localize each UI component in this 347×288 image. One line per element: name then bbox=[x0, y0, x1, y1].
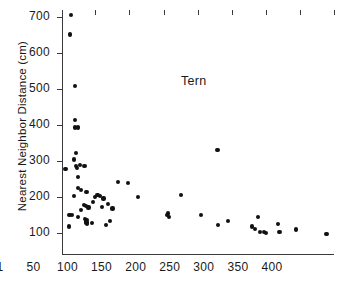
x-tick-label: 100 bbox=[57, 260, 78, 274]
data-point bbox=[215, 148, 219, 152]
y-tick: 500 bbox=[57, 89, 62, 90]
y-axis-line bbox=[62, 10, 63, 255]
data-point bbox=[85, 222, 89, 226]
data-point bbox=[68, 32, 72, 36]
x-tick-label: 300 bbox=[193, 260, 214, 274]
x-tick-label: 1 bbox=[0, 260, 3, 274]
y-tick: 700 bbox=[57, 17, 62, 18]
x-tick-label: 200 bbox=[125, 260, 146, 274]
x-tick-label: 400 bbox=[262, 260, 283, 274]
x-tick-label: 250 bbox=[159, 260, 180, 274]
data-point bbox=[116, 180, 120, 184]
data-point bbox=[82, 164, 86, 168]
data-point bbox=[72, 157, 76, 161]
data-point bbox=[86, 205, 90, 209]
data-point bbox=[100, 205, 104, 209]
data-point bbox=[73, 118, 77, 122]
data-point bbox=[256, 215, 260, 219]
data-point bbox=[324, 232, 328, 236]
x-tick-label: 150 bbox=[91, 260, 112, 274]
data-point bbox=[126, 181, 130, 185]
y-tick-label: 700 bbox=[29, 9, 50, 23]
x-tick bbox=[198, 10, 199, 15]
data-point bbox=[253, 227, 257, 231]
data-point bbox=[276, 222, 280, 226]
data-point bbox=[63, 167, 67, 171]
data-point bbox=[76, 215, 80, 219]
data-point bbox=[277, 230, 281, 234]
data-point bbox=[294, 227, 298, 231]
x-tick bbox=[334, 10, 335, 15]
series-annotation-label: Tern bbox=[181, 74, 207, 88]
data-point bbox=[90, 221, 94, 225]
x-tick bbox=[300, 10, 301, 15]
data-point bbox=[216, 223, 220, 227]
data-point bbox=[74, 151, 78, 155]
y-tick-label: 200 bbox=[29, 189, 50, 203]
data-point bbox=[106, 202, 110, 206]
y-tick: 100 bbox=[57, 233, 62, 234]
y-tick: 400 bbox=[57, 125, 62, 126]
y-tick-label: 500 bbox=[29, 81, 50, 95]
data-point bbox=[72, 194, 76, 198]
data-point bbox=[108, 219, 112, 223]
data-point bbox=[167, 215, 171, 219]
y-axis-label: Nearest Neighbor Distance (cm) bbox=[16, 16, 28, 236]
data-point bbox=[199, 213, 203, 217]
data-point bbox=[91, 200, 95, 204]
data-point bbox=[101, 196, 105, 200]
y-tick-label: 300 bbox=[29, 153, 50, 167]
x-tick bbox=[95, 10, 96, 15]
y-tick-label: 400 bbox=[29, 117, 50, 131]
plot-area: 100200300400500600700 bbox=[62, 10, 334, 255]
data-point bbox=[110, 206, 114, 210]
y-tick-label: 600 bbox=[29, 45, 50, 59]
scatter-plot-figure: Nearest Neighbor Distance (cm) 100200300… bbox=[0, 0, 347, 288]
x-tick-label: 50 bbox=[26, 260, 40, 274]
x-axis-tick-labels: 150100150200250300350400 bbox=[0, 252, 272, 272]
data-point bbox=[76, 186, 80, 190]
y-tick: 300 bbox=[57, 161, 62, 162]
x-tick-label: 350 bbox=[227, 260, 248, 274]
x-tick bbox=[266, 10, 267, 15]
y-tick: 600 bbox=[57, 53, 62, 54]
data-point bbox=[76, 175, 80, 179]
data-point bbox=[264, 231, 268, 235]
data-point bbox=[67, 224, 71, 228]
data-point bbox=[69, 13, 73, 17]
x-tick bbox=[232, 10, 233, 15]
data-point bbox=[136, 195, 140, 199]
data-point bbox=[84, 190, 88, 194]
data-point bbox=[70, 213, 74, 217]
data-point bbox=[104, 223, 108, 227]
data-point bbox=[76, 125, 80, 129]
y-tick-label: 100 bbox=[29, 225, 50, 239]
data-point bbox=[226, 219, 230, 223]
y-tick: 200 bbox=[57, 197, 62, 198]
x-tick bbox=[164, 10, 165, 15]
x-tick bbox=[129, 10, 130, 15]
data-point bbox=[79, 208, 83, 212]
data-point bbox=[73, 84, 77, 88]
data-point bbox=[179, 193, 183, 197]
